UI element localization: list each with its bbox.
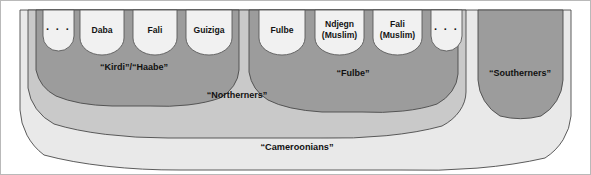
cell-label-kirdi-fali: Fali (148, 25, 163, 35)
label-kirdi-haabe: “Kirdi”/“Haabe” (100, 62, 168, 72)
cell-label-kirdi-ellipsis-left: · · · (46, 23, 71, 35)
label-southerners: “Southerners” (489, 68, 551, 78)
cell-label-fulbe-ndjegn-1: Ndjegn (325, 19, 354, 29)
cell-label-fulbe-fali-2: (Muslim) (380, 30, 415, 40)
cell-label-fulbe-fali-1: Fali (390, 19, 405, 29)
cell-label-kirdi-daba: Daba (91, 25, 112, 35)
cell-label-fulbe-fulbe: Fulbe (271, 25, 294, 35)
cell-label-kirdi-guiziga: Guiziga (193, 25, 224, 35)
ethnic-identity-diagram: · · · Daba Fali Guiziga Fulbe Ndjegn (Mu… (0, 0, 591, 175)
label-northerners: “Northerners” (207, 90, 268, 100)
cell-label-fulbe-ndjegn-2: (Muslim) (322, 30, 357, 40)
label-cameroonians: “Cameroonians” (260, 142, 333, 152)
region-southerners (478, 10, 563, 119)
cell-label-fulbe-ellipsis-right: · · · (434, 23, 459, 35)
label-fulbe: “Fulbe” (337, 68, 370, 78)
diagram-canvas: · · · Daba Fali Guiziga Fulbe Ndjegn (Mu… (0, 0, 591, 175)
